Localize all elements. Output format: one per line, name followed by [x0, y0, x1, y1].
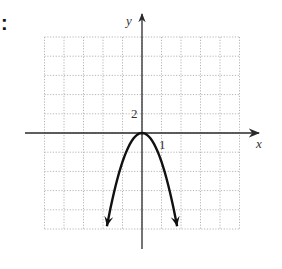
y-axis-label: y: [126, 14, 132, 27]
y-tick-label: 2: [131, 107, 138, 120]
graph-figure: : y x 2 1: [0, 0, 282, 269]
coordinate-plane: [0, 0, 282, 269]
x-axis-label: x: [256, 137, 262, 150]
x-tick-label: 1: [159, 138, 166, 151]
